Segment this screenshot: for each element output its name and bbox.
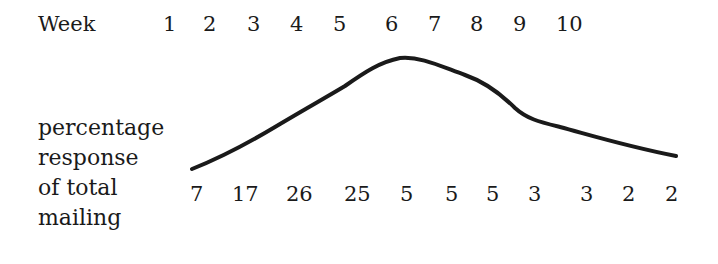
response-curve xyxy=(0,0,718,264)
value-label-5: 5 xyxy=(400,184,413,205)
value-label-1: 7 xyxy=(190,184,203,205)
value-label-11: 2 xyxy=(665,184,678,205)
value-label-6: 5 xyxy=(445,184,458,205)
value-label-2: 17 xyxy=(232,184,259,205)
value-label-4: 25 xyxy=(344,184,371,205)
value-label-10: 2 xyxy=(622,184,635,205)
value-label-9: 3 xyxy=(580,184,593,205)
value-label-8: 3 xyxy=(528,184,541,205)
value-label-7: 5 xyxy=(486,184,499,205)
value-label-3: 26 xyxy=(286,184,313,205)
